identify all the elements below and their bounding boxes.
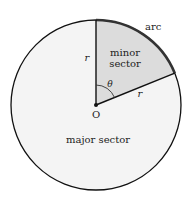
center-point — [94, 103, 98, 107]
label-minor-line1: minor — [110, 47, 140, 58]
label-arc: arc — [145, 21, 162, 32]
label-angle-theta: θ — [107, 79, 113, 89]
label-minor-line2: sector — [109, 58, 141, 69]
circle-sector-diagram: arc minor sector r r θ O major sector — [0, 0, 196, 205]
label-center-o: O — [92, 109, 100, 120]
label-major-sector: major sector — [66, 134, 130, 145]
